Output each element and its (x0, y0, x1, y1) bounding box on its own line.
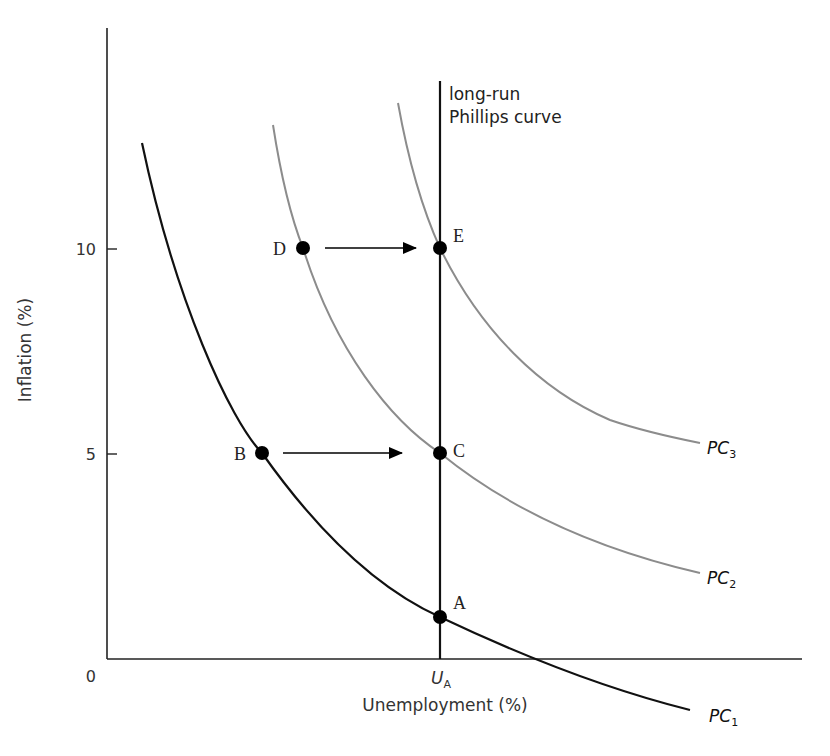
x-tick-ua-main: U (431, 668, 444, 688)
x-axis-title: Unemployment (%) (362, 695, 528, 715)
point-a-label: A (453, 593, 466, 613)
pc1-label-sub: 1 (731, 716, 738, 729)
pc2-curve (273, 125, 700, 573)
lrpc-label-line1: long-run (449, 84, 520, 104)
pc1-label-main: PC (709, 706, 731, 726)
pc2-label: PC2 (707, 568, 736, 591)
x-tick-ua-sub: A (443, 678, 451, 691)
pc3-label: PC3 (707, 438, 736, 461)
pc3-label-main: PC (707, 438, 729, 458)
point-e-label: E (453, 226, 464, 246)
x-tick-label-ua: UA (431, 668, 451, 691)
pc3-label-sub: 3 (729, 448, 736, 461)
point-c (433, 446, 447, 460)
origin-label: 0 (86, 667, 96, 686)
point-b-label: B (234, 444, 246, 464)
phillips-curve-chart: 10 5 0 UA Unemployment (%) Inflation (%)… (0, 0, 830, 756)
point-d-label: D (273, 239, 286, 259)
y-tick-label-5: 5 (86, 445, 96, 464)
pc1-curve (142, 143, 690, 710)
pc2-label-sub: 2 (729, 578, 736, 591)
y-axis-title: Inflation (%) (15, 298, 35, 402)
point-c-label: C (453, 441, 465, 461)
pc2-label-main: PC (707, 568, 729, 588)
point-d (296, 241, 310, 255)
lrpc-label-line2: Phillips curve (449, 107, 562, 127)
pc3-curve (398, 103, 700, 443)
y-tick-label-10: 10 (76, 240, 96, 259)
point-b (255, 446, 269, 460)
point-e (433, 241, 447, 255)
point-a (433, 610, 447, 624)
pc1-label: PC1 (709, 706, 738, 729)
